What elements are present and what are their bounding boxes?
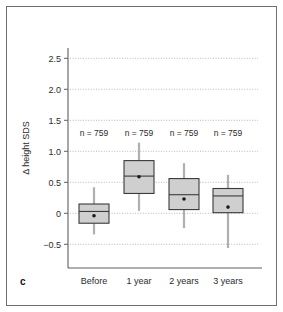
boxes-group [79,143,243,248]
box-iqr [79,204,109,223]
y-tick-label: 1.0 [48,147,61,157]
sample-size-label: n = 759 [170,128,199,138]
box-plot-Before [79,187,109,234]
y-axis-title: Δ height SDS [21,121,31,175]
figure-panel: −0.500.51.01.52.02.5 Δ height SDS n = 75… [0,0,283,312]
y-tick-label: 1.5 [48,116,61,126]
y-axis-tickmarks [64,58,68,244]
mean-marker [226,205,230,209]
sample-size-labels: n = 759n = 759n = 759n = 759 [80,128,243,138]
box-iqr [169,179,199,210]
y-axis-tick-labels: −0.500.51.01.52.02.5 [43,54,61,250]
mean-marker [182,197,186,201]
box-plot-1-year [124,143,154,211]
category-label-Before: Before [81,276,108,286]
mean-marker [137,175,141,179]
x-axis-category-labels: Before1 year2 years3 years [81,276,244,286]
box-plot-3-years [213,175,243,248]
y-tick-label: 0 [56,209,61,219]
category-label-1-year: 1 year [126,276,151,286]
sample-size-label: n = 759 [125,128,154,138]
sample-size-label: n = 759 [80,128,109,138]
sample-size-label: n = 759 [214,128,243,138]
y-tick-label: −0.5 [43,240,61,250]
category-label-2-years: 2 years [169,276,199,286]
box-plot-2-years [169,163,199,228]
y-tick-label: 2.0 [48,85,61,95]
box-iqr [213,189,243,213]
panel-letter: c [20,276,26,287]
y-tick-label: 0.5 [48,178,61,188]
category-label-3-years: 3 years [213,276,243,286]
box-plot-chart: −0.500.51.01.52.02.5 Δ height SDS n = 75… [0,0,283,312]
chart-canvas: −0.500.51.01.52.02.5 Δ height SDS n = 75… [0,0,283,312]
y-tick-label: 2.5 [48,54,61,64]
mean-marker [92,214,96,218]
